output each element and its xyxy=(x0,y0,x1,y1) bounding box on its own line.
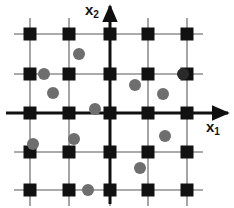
lattice-point-square xyxy=(63,107,76,120)
sample-point-circle xyxy=(157,88,169,100)
sample-point-circle xyxy=(38,68,50,80)
sample-point-circle xyxy=(129,79,141,91)
lattice-point-square xyxy=(142,107,155,120)
lattice-point-square xyxy=(181,146,194,159)
sample-point-circle xyxy=(73,48,85,60)
axis-label-x2: x2 xyxy=(85,2,99,17)
lattice-point-square xyxy=(104,146,117,159)
sample-point-circle xyxy=(82,184,94,196)
sample-point-circle xyxy=(89,103,101,115)
sample-point-circle xyxy=(68,133,80,145)
lattice-point-square xyxy=(104,28,117,41)
lattice-point-square xyxy=(142,28,155,41)
sample-point-circle xyxy=(134,162,146,174)
lattice-figure: x2 x1 xyxy=(0,0,234,208)
lattice-point-square xyxy=(24,28,37,41)
lattice-point-square xyxy=(181,184,194,197)
lattice-point-square xyxy=(104,68,117,81)
sample-point-circle xyxy=(27,138,39,150)
lattice-point-square xyxy=(104,107,117,120)
sample-point-circle xyxy=(47,87,59,99)
lattice-point-square xyxy=(63,184,76,197)
lattice-point-square xyxy=(142,146,155,159)
lattice-point-square xyxy=(142,184,155,197)
lattice-point-square xyxy=(104,184,117,197)
lattice-point-square xyxy=(63,28,76,41)
axis-label-x2-subscript: 2 xyxy=(93,9,99,20)
lattice-point-square xyxy=(63,146,76,159)
axis-label-x1-subscript: 1 xyxy=(214,126,220,137)
sample-point-circle xyxy=(159,130,171,142)
lattice-point-square xyxy=(24,107,37,120)
lattice-point-square xyxy=(142,68,155,81)
sample-point-circle xyxy=(177,68,189,80)
lattice-point-square xyxy=(24,184,37,197)
lattice-point-square xyxy=(63,68,76,81)
lattice-point-square xyxy=(24,68,37,81)
lattice-point-square xyxy=(181,28,194,41)
lattice-point-square xyxy=(181,107,194,120)
plot-canvas xyxy=(0,0,234,208)
axis-label-x1: x1 xyxy=(206,119,220,134)
axis-lines xyxy=(6,6,228,204)
